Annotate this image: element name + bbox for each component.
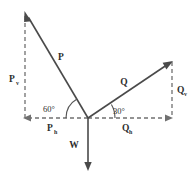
pv-label-subscript: v bbox=[16, 80, 19, 86]
qv-label-subscript: v bbox=[184, 91, 187, 97]
horizontal-axis-dashed bbox=[23, 115, 173, 122]
vector-diagram-figure: P Q W P v P h Q v Q h bbox=[0, 0, 196, 178]
w-vector-arrowhead bbox=[84, 162, 91, 171]
angle-arcs bbox=[66, 99, 115, 118]
p-vector-line bbox=[29, 18, 89, 119]
qh-arrowhead bbox=[165, 115, 173, 122]
p-vector bbox=[24, 11, 88, 118]
ph-arrowhead bbox=[23, 115, 31, 122]
angle-30-label: 30° bbox=[113, 106, 125, 116]
qh-label: Q h bbox=[122, 123, 133, 135]
w-vector bbox=[84, 118, 91, 171]
angle-60-label: 60° bbox=[43, 104, 55, 114]
diagram-labels: P Q W P v P h Q v Q h bbox=[9, 52, 187, 150]
qv-label: Q v bbox=[177, 85, 187, 97]
ph-label: P h bbox=[47, 123, 58, 135]
vector-diagram-canvas: P Q W P v P h Q v Q h bbox=[0, 0, 196, 178]
vertical-component-dashed bbox=[25, 16, 172, 118]
q-vector bbox=[88, 61, 173, 118]
ph-label-base: P bbox=[47, 123, 53, 133]
qh-label-subscript: h bbox=[129, 129, 133, 135]
p-vector-arrowhead bbox=[24, 11, 31, 22]
pv-label: P v bbox=[9, 74, 19, 86]
angle-60-arc bbox=[66, 99, 77, 118]
w-vector-label: W bbox=[69, 140, 79, 150]
pv-label-base: P bbox=[9, 74, 15, 84]
p-vector-label: P bbox=[58, 52, 64, 62]
ph-label-subscript: h bbox=[54, 129, 58, 135]
q-vector-label: Q bbox=[120, 77, 127, 87]
q-vector-line bbox=[88, 66, 166, 119]
